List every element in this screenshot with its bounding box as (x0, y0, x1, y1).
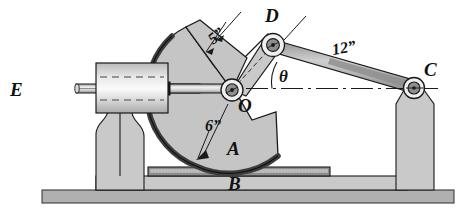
bearing-cylinder (96, 63, 168, 113)
pin-joint-c (404, 78, 425, 99)
mechanism-figure: E D O C A B θ 5” 6” 12” (0, 0, 462, 216)
label-angle-theta: θ (279, 67, 288, 86)
label-point-o: O (238, 95, 252, 116)
label-point-c: C (424, 59, 437, 80)
pin-joint-d (262, 34, 285, 57)
mechanism-svg: E D O C A B θ 5” 6” 12” (0, 0, 462, 216)
label-dim-rod: 12” (331, 37, 358, 58)
label-point-e: E (9, 79, 23, 100)
ground-bar (42, 190, 454, 203)
label-part-b: B (227, 173, 241, 194)
label-part-a: A (226, 138, 240, 159)
dimension-leader-12in (284, 16, 306, 40)
label-point-d: D (264, 5, 279, 26)
label-dim-radius: 6” (205, 117, 221, 134)
